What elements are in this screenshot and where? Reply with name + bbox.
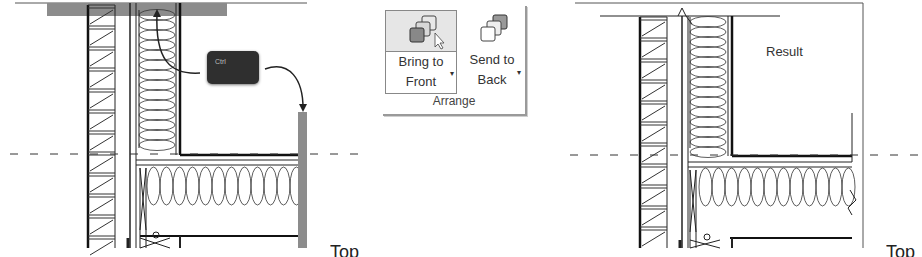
cut-off-label-left: Top <box>330 239 359 257</box>
send-to-back-icon <box>461 10 523 50</box>
send-to-back-button[interactable]: Send to Back ▾ <box>461 10 523 92</box>
result-detail-drawing <box>560 0 922 257</box>
chevron-down-icon[interactable]: ▾ <box>450 69 454 78</box>
vertical-insulation <box>690 17 726 158</box>
bring-to-front-icon <box>386 11 456 51</box>
highlighted-top-plate <box>47 3 227 16</box>
ctrl-key-label: Ctrl <box>215 58 226 65</box>
arrange-ribbon-group: Bring to Front ▾ Send to Back ▾ Arrange <box>383 6 527 116</box>
before-detail-drawing: Ctrl Top <box>0 0 370 257</box>
result-label: Result <box>766 44 803 59</box>
bring-to-front-label-2: Front <box>386 72 456 92</box>
send-to-back-label-1: Send to <box>461 50 523 70</box>
ribbon-group-label: Arrange <box>383 94 525 108</box>
bring-to-front-label-1: Bring to <box>386 52 456 72</box>
horizontal-insulation <box>699 168 855 206</box>
drag-arrow-up <box>157 13 200 73</box>
bring-to-front-button[interactable]: Bring to Front ▾ <box>385 10 457 94</box>
horizontal-insulation <box>147 167 303 205</box>
send-to-back-label-2: Back <box>461 70 523 90</box>
cut-off-label-right: Top <box>886 239 915 257</box>
ctrl-key-icon: Ctrl <box>207 51 259 84</box>
chevron-down-icon[interactable]: ▾ <box>517 68 521 77</box>
highlighted-wall-edge <box>298 112 307 248</box>
brick-column <box>88 5 115 255</box>
drag-arrow-down <box>265 67 303 108</box>
brick-column <box>640 17 667 248</box>
